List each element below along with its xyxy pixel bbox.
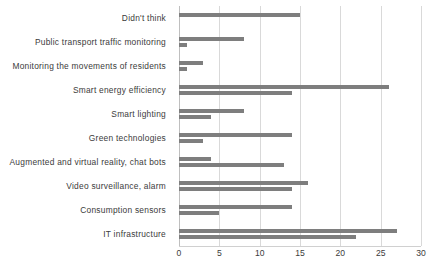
gridline-x-10 — [260, 6, 261, 246]
bar — [179, 91, 292, 95]
bar — [179, 67, 187, 71]
bar — [179, 211, 219, 215]
horizontal-bar-chart: Didn't thinkPublic transport traffic mon… — [0, 0, 441, 272]
category-label: IT infrastructure — [0, 229, 166, 239]
gridline-x-30 — [421, 6, 422, 246]
bar — [179, 85, 389, 89]
x-axis-line — [179, 246, 421, 247]
category-label: Green technologies — [0, 133, 166, 143]
bar — [179, 133, 292, 137]
category-label: Didn't think — [0, 13, 166, 23]
bar — [179, 115, 211, 119]
bar — [179, 109, 244, 113]
category-label: Monitoring the movements of residents — [0, 61, 166, 71]
category-label: Consumption sensors — [0, 205, 166, 215]
gridline-x-5 — [219, 6, 220, 246]
bar — [179, 139, 203, 143]
y-axis-line — [179, 6, 180, 246]
x-tick-label: 10 — [255, 248, 265, 258]
bar — [179, 163, 284, 167]
bar — [179, 13, 300, 17]
category-label-column: Didn't thinkPublic transport traffic mon… — [0, 0, 172, 246]
x-tick-label: 15 — [295, 248, 305, 258]
category-label: Smart energy efficiency — [0, 85, 166, 95]
x-tick-label: 5 — [217, 248, 222, 258]
bar — [179, 187, 292, 191]
bar — [179, 157, 211, 161]
category-label: Augmented and virtual reality, chat bots — [0, 157, 166, 167]
x-tick-label: 0 — [177, 248, 182, 258]
bar — [179, 43, 187, 47]
category-label: Public transport traffic monitoring — [0, 37, 166, 47]
bar — [179, 61, 203, 65]
x-tick-label: 20 — [336, 248, 346, 258]
gridline-x-20 — [340, 6, 341, 246]
x-tick-label: 30 — [416, 248, 426, 258]
plot-area — [179, 6, 421, 246]
gridline-x-25 — [381, 6, 382, 246]
gridline-x-15 — [300, 6, 301, 246]
x-axis-tick-labels: 051015202530 — [179, 248, 421, 266]
bar — [179, 235, 356, 239]
x-tick-label: 25 — [376, 248, 386, 258]
bar — [179, 205, 292, 209]
category-label: Smart lighting — [0, 109, 166, 119]
bar — [179, 181, 308, 185]
bar — [179, 229, 397, 233]
category-label: Video surveillance, alarm — [0, 181, 166, 191]
bar — [179, 37, 244, 41]
